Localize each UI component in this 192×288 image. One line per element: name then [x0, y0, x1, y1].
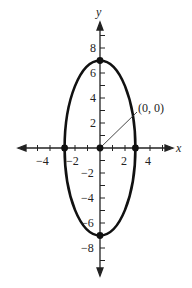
bottom-vertex-point: [97, 232, 104, 239]
center-annotation: (0, 0): [138, 101, 164, 115]
y-tick-label: −2: [81, 166, 94, 180]
right-intercept-point: [132, 145, 139, 152]
x-axis-right-arrow-icon: [165, 145, 173, 151]
y-tick-label: −8: [81, 241, 94, 255]
y-tick-label: 4: [90, 91, 96, 105]
y-axis-up-arrow-icon: [97, 22, 103, 30]
ellipse-graph: y x (0, 0) −4 −2 2 4 8 6 4 2 −2 −4 −6 −8: [0, 0, 192, 288]
x-tick-label: 2: [121, 154, 127, 168]
y-tick-label: −4: [81, 191, 94, 205]
left-intercept-point: [61, 145, 68, 152]
y-tick-label: 2: [90, 116, 96, 130]
center-point: [97, 145, 104, 152]
y-tick-label: −6: [81, 216, 94, 230]
y-tick-label: 8: [90, 41, 96, 55]
annotation-leader-line: [100, 112, 137, 148]
x-tick-label: −2: [66, 154, 79, 168]
y-axis-label: y: [95, 5, 102, 19]
x-tick-label: 4: [145, 154, 151, 168]
y-axis-down-arrow-icon: [97, 268, 103, 276]
x-tick-label: −4: [36, 154, 49, 168]
x-axis-label: x: [175, 141, 182, 155]
x-axis-left-arrow-icon: [18, 145, 26, 151]
top-vertex-point: [97, 57, 104, 64]
y-tick-label: 6: [90, 66, 96, 80]
